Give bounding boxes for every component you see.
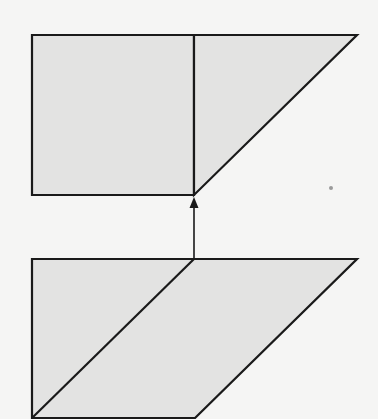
- speck: [329, 186, 333, 190]
- diagram-canvas: [0, 0, 378, 419]
- top-triangle: [194, 35, 357, 195]
- top-square: [32, 35, 194, 195]
- bottom-parallelogram: [32, 259, 357, 418]
- arrowhead-icon: [190, 197, 199, 208]
- dissection-diagram: [0, 0, 378, 419]
